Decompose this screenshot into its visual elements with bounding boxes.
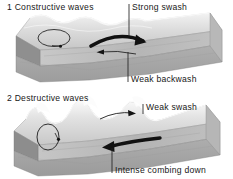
- panel-constructive-waves: 1 Constructive waves Strong swash Weak b…: [0, 0, 233, 90]
- panel-destructive-waves: 2 Destructive waves Weak swash Intense c…: [0, 89, 233, 179]
- label-strong-swash: Strong swash: [132, 2, 187, 12]
- constructive-block-illustration: [0, 0, 233, 90]
- label-intense-combing-down: Intense combing down: [115, 165, 206, 175]
- label-weak-backwash: Weak backwash: [131, 74, 197, 84]
- wave-diagram-figure: 1 Constructive waves Strong swash Weak b…: [0, 0, 233, 179]
- panel-1-caption: 1 Constructive waves: [7, 2, 94, 12]
- label-weak-swash: Weak swash: [146, 102, 197, 112]
- panel-2-caption: 2 Destructive waves: [7, 93, 89, 103]
